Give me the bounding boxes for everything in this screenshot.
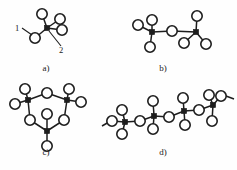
- oxygen-node: [204, 90, 214, 100]
- oxygen-node: [59, 115, 69, 125]
- oxygen-node: [117, 105, 127, 115]
- bond-label-1-leader: [22, 28, 32, 35]
- panel-b: b): [133, 11, 211, 73]
- oxygen-node: [192, 11, 202, 21]
- center-node: [64, 97, 69, 102]
- chain-tail-right: [226, 96, 234, 99]
- center-node: [44, 128, 49, 133]
- panel-label-b: b): [159, 63, 167, 73]
- oxygen-node: [180, 120, 190, 130]
- center-node: [210, 102, 215, 107]
- oxygen-node: [207, 116, 217, 126]
- oxygen-node: [25, 115, 35, 125]
- oxygen-node: [145, 42, 155, 52]
- oxygen-node: [64, 84, 74, 94]
- bond-label-1: 1: [15, 23, 19, 33]
- oxygen-node: [194, 105, 204, 115]
- panel-label-a: a): [43, 63, 50, 73]
- oxygen-node: [107, 116, 117, 126]
- oxygen-node: [179, 38, 189, 48]
- oxygen-node: [148, 124, 158, 134]
- oxygen-node: [42, 88, 52, 98]
- center-node: [44, 25, 49, 30]
- center-node: [149, 29, 154, 34]
- oxygen-node: [57, 25, 67, 35]
- oxygen-node: [178, 93, 188, 103]
- oxygen-node: [37, 9, 47, 19]
- panel-d: d): [102, 90, 234, 157]
- oxygen-node: [135, 116, 145, 126]
- oxygen-node: [164, 112, 174, 122]
- center-node: [25, 97, 30, 102]
- figure-container: 12a)b)c)d): [0, 0, 237, 170]
- panel-d-oxygens: [107, 90, 226, 139]
- oxygen-node: [133, 20, 143, 30]
- oxygen-node: [20, 84, 30, 94]
- oxygen-node: [117, 129, 127, 139]
- panel-b-oxygens: [133, 11, 211, 52]
- panel-label-c: c): [43, 147, 50, 157]
- center-node: [181, 108, 186, 113]
- panel-c-oxygens: [10, 84, 86, 151]
- oxygen-node: [216, 91, 226, 101]
- oxygen-node: [201, 39, 211, 49]
- oxygen-node: [148, 96, 158, 106]
- oxygen-node: [167, 26, 177, 36]
- panel-a: 12a): [15, 9, 67, 73]
- center-node: [193, 29, 198, 34]
- oxygen-node: [147, 15, 157, 25]
- center-node: [151, 113, 156, 118]
- panel-a-centers: [44, 25, 49, 30]
- center-node: [122, 119, 127, 124]
- oxygen-node: [76, 97, 86, 107]
- oxygen-node: [42, 109, 52, 119]
- structure-figure: 12a)b)c)d): [0, 0, 237, 170]
- oxygen-node: [10, 99, 20, 109]
- panel-c: c): [10, 84, 86, 157]
- bond-label-2: 2: [59, 45, 63, 55]
- panel-label-d: d): [159, 147, 167, 157]
- oxygen-node: [55, 14, 65, 24]
